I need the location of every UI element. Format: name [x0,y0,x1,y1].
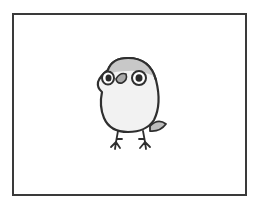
bird-illustration [0,0,255,206]
bird-legs [111,131,150,149]
